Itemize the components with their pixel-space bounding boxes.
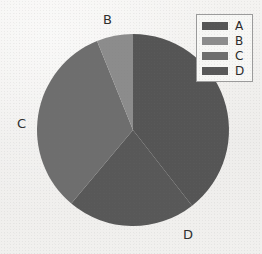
pie-slice-label-c: C [17, 117, 26, 130]
legend-item-d[interactable]: D [202, 64, 248, 77]
legend-item-a[interactable]: A [202, 19, 248, 32]
legend-label-a: A [235, 20, 243, 32]
legend-label-c: C [235, 50, 243, 62]
legend-swatch-d [202, 67, 228, 75]
legend-item-b[interactable]: B [202, 34, 248, 47]
pie-slice-label-b: B [103, 13, 112, 26]
legend-item-c[interactable]: C [202, 49, 248, 62]
legend-swatch-b [202, 37, 228, 45]
chart-canvas: B C D ABCD [0, 0, 262, 254]
legend-label-b: B [235, 35, 243, 47]
legend-swatch-a [202, 22, 228, 30]
chart-legend: ABCD [196, 14, 253, 82]
legend-swatch-c [202, 52, 228, 60]
legend-label-d: D [235, 65, 244, 77]
pie-slice-label-d: D [183, 228, 193, 241]
